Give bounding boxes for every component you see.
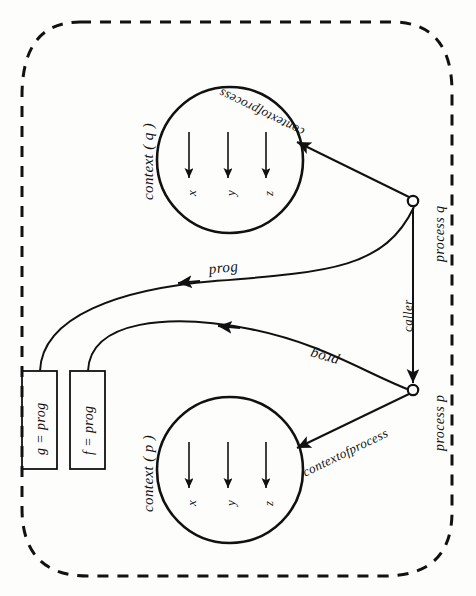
box-f-label: f = prog: [81, 406, 97, 455]
process-q-node: [408, 196, 418, 206]
process-q-label: process q: [432, 206, 448, 262]
context-p-var-x: x: [184, 500, 200, 506]
context-p-circle: [157, 397, 303, 543]
context-q-var-z: z: [261, 191, 277, 196]
context-q-var-y: y: [223, 190, 239, 196]
process-p-node: [408, 385, 418, 395]
context-q-circle: [157, 87, 303, 233]
context-q-label: context ( q ): [140, 123, 157, 200]
figure-canvas: context ( q ) x y z context ( p ) x y z …: [0, 0, 476, 596]
edge-caller-label: caller: [400, 299, 416, 332]
edge-prog-q-label: prog: [208, 258, 239, 278]
context-q-var-x: x: [184, 190, 200, 196]
diagram-svg: [0, 0, 476, 596]
edge-contextofprocess-q: [297, 142, 409, 197]
process-p-label: process p: [432, 395, 448, 451]
context-p-var-y: y: [223, 500, 239, 506]
context-p-label: context ( p ): [140, 435, 157, 512]
box-g-label: g = prog: [33, 402, 49, 455]
context-p-var-z: z: [261, 501, 277, 506]
edge-prog-p: [88, 321, 407, 389]
